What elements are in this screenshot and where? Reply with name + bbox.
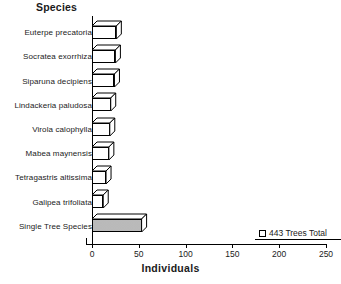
x-tick-label: 150: [225, 249, 239, 259]
x-tick: [186, 244, 187, 248]
category-label: Tetragastris altissima: [15, 173, 92, 182]
category-label: Single Tree Species: [19, 221, 92, 230]
x-tick: [232, 244, 233, 248]
legend: 443 Trees Total: [259, 228, 327, 238]
x-tick: [279, 244, 280, 248]
bar: [92, 166, 111, 184]
x-tick-label: 0: [90, 249, 95, 259]
bar: [92, 93, 116, 111]
category-label: Mabea maynensis: [26, 149, 92, 158]
category-label: Lindackeria paludosa: [14, 100, 92, 109]
species-bar-chart: Species 050100150200250 Euterpe precator…: [0, 0, 341, 284]
x-axis-left-cap: [86, 238, 87, 245]
legend-label: 443 Trees Total: [269, 228, 327, 238]
x-tick: [92, 244, 93, 248]
bar-3d-faces: [92, 142, 116, 162]
category-label: Galipea trifoliata: [32, 197, 92, 206]
pattern-swatch-icon: [259, 230, 266, 237]
category-label: Virola calophylla: [32, 125, 92, 134]
bar-3d-faces: [92, 214, 149, 234]
bar-3d-faces: [92, 69, 121, 89]
bar: [92, 190, 108, 208]
legend-rule: [255, 239, 341, 240]
bar-3d-faces: [92, 45, 122, 65]
category-label: Siparuna decipiens: [22, 76, 92, 85]
y-axis-title: Species: [36, 1, 77, 13]
x-tick-label: 250: [319, 249, 333, 259]
bar: [92, 142, 114, 160]
x-axis-title: Individuals: [0, 262, 341, 274]
bar-3d-faces: [92, 93, 118, 113]
bar: [92, 69, 119, 87]
bar: [92, 214, 147, 232]
x-axis-line: [86, 244, 326, 245]
category-label: Socratea exorrhiza: [23, 52, 92, 61]
bar-3d-faces: [92, 190, 110, 210]
bar: [92, 45, 120, 63]
bar-3d-faces: [92, 118, 117, 138]
bar-3d-faces: [92, 166, 113, 186]
category-label: Euterpe precatoria: [24, 28, 92, 37]
bar-3d-faces: [92, 21, 123, 41]
x-tick-label: 50: [134, 249, 143, 259]
x-tick: [326, 244, 327, 248]
bar: [92, 118, 115, 136]
x-tick-label: 200: [272, 249, 286, 259]
bar: [92, 21, 121, 39]
x-tick: [139, 244, 140, 248]
x-tick-label: 100: [179, 249, 193, 259]
